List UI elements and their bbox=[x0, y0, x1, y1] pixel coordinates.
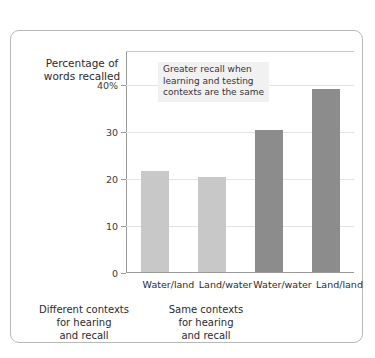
y-tick-mark-30 bbox=[121, 132, 126, 133]
x-axis-line bbox=[126, 272, 354, 273]
bar-water-water bbox=[255, 130, 283, 272]
bar-land-land bbox=[312, 89, 340, 272]
bar-land-water bbox=[198, 177, 226, 272]
x-label-land-land: Land/land bbox=[302, 279, 375, 290]
plot-area: 010203040% Greater recall when learning … bbox=[126, 51, 354, 273]
group-label-different: Different contexts for hearing and recal… bbox=[19, 303, 149, 342]
chart-frame: Percentage of words recalled 010203040% … bbox=[10, 30, 363, 343]
group-label-same: Same contexts for hearing and recall bbox=[146, 303, 266, 342]
y-tick-mark-20 bbox=[121, 179, 126, 180]
y-tick-label-40: 40% bbox=[97, 79, 118, 90]
chart-annotation: Greater recall when learning and testing… bbox=[158, 62, 269, 102]
y-tick-mark-40 bbox=[121, 85, 126, 86]
y-tick-label-30: 30 bbox=[106, 126, 118, 137]
y-tick-label-10: 10 bbox=[106, 220, 118, 231]
y-tick-label-0: 0 bbox=[112, 268, 118, 279]
bar-water-land bbox=[141, 171, 169, 272]
y-tick-mark-0 bbox=[121, 273, 126, 274]
y-tick-mark-10 bbox=[121, 226, 126, 227]
y-tick-label-20: 20 bbox=[106, 173, 118, 184]
